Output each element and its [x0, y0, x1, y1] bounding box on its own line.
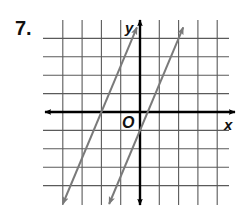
origin-label: O [122, 114, 135, 131]
x-axis-label: x [223, 116, 233, 133]
y-axis-label: y [124, 19, 134, 36]
coordinate-graph: y x O [0, 0, 240, 216]
